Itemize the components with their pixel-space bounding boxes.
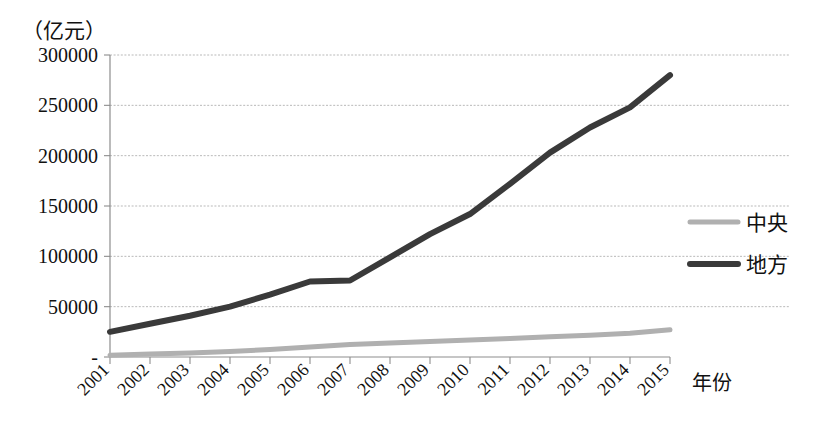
y-tick-label: 200000	[38, 145, 98, 167]
y-tick-label: 150000	[38, 195, 98, 217]
y-tick-label: 50000	[48, 296, 98, 318]
x-axis-title: 年份	[692, 372, 732, 394]
y-tick-label: 250000	[38, 94, 98, 116]
line-chart: （亿元） -5000010000015000020000025000030000…	[0, 0, 827, 444]
y-tick-label: 300000	[38, 44, 98, 66]
legend-label-0: 中央	[746, 211, 788, 234]
y-axis-unit-label: （亿元）	[22, 19, 106, 42]
y-tick-label: 100000	[38, 245, 98, 267]
legend-label-1: 地方	[746, 253, 788, 276]
chart-canvas: （亿元） -5000010000015000020000025000030000…	[0, 0, 827, 444]
